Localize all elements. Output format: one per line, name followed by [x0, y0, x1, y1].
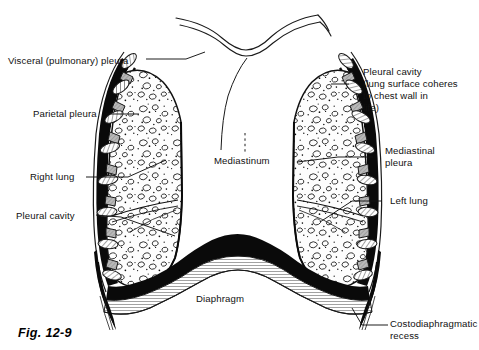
label-costodiaphragmatic-line2: recess [390, 330, 419, 342]
label-right-lung: Right lung [30, 171, 74, 183]
figure-caption: Fig. 12-9 [18, 326, 72, 340]
label-costodiaphragmatic-line1: Costodiaphragmatic [390, 318, 477, 330]
label-left-lung: Left lung [390, 195, 428, 207]
label-pleural-cavity-right-line1: Pleural cavity [363, 66, 422, 78]
label-diaphragm: Diaphragm [196, 293, 244, 305]
label-pleural-cavity-right-line3: to chest wall in [363, 90, 428, 102]
label-mediastinal-pleura-line1: Mediastinal [385, 145, 435, 157]
label-mediastinum: Mediastinum [214, 155, 270, 167]
label-pleural-cavity-right-line2: (lung surface coheres [363, 78, 458, 90]
label-mediastinal-pleura-line2: pleura [385, 157, 412, 169]
label-parietal-pleura: Parietal pleura [33, 108, 97, 120]
label-pleural-cavity-right-line4: life) [363, 102, 379, 114]
label-visceral-pleura: Visceral (pulmonary) pleura [8, 55, 128, 67]
label-pleural-cavity-left: Pleural cavity [16, 210, 75, 222]
